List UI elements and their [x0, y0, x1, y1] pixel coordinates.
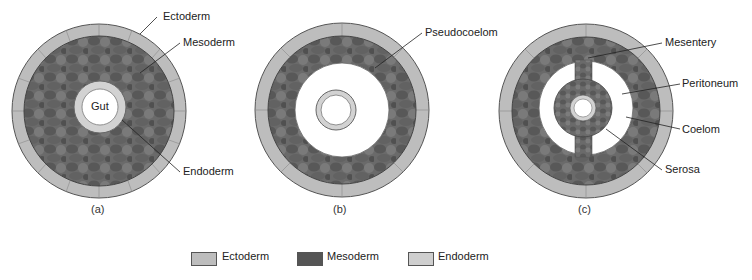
gut-cavity — [574, 99, 592, 117]
label-serosa: Serosa — [665, 163, 700, 175]
legend-label-endoderm: Endoderm — [438, 250, 489, 262]
legend-label-mesoderm: Mesoderm — [327, 250, 379, 262]
label-gut: Gut — [91, 100, 109, 112]
caption-b: (b) — [333, 203, 346, 215]
label-coelom: Coelom — [682, 123, 720, 135]
panel-c-diagram — [499, 24, 680, 198]
label-mesoderm: Mesoderm — [183, 36, 235, 48]
legend-swatch-ectoderm — [191, 252, 217, 266]
label-mesentery: Mesentery — [665, 36, 716, 48]
panel-b-diagram — [255, 23, 429, 197]
caption-a: (a) — [91, 203, 104, 215]
gut-cavity — [321, 95, 351, 125]
legend-swatch-mesoderm — [297, 252, 323, 266]
legend-swatch-endoderm — [408, 252, 434, 266]
legend-label-ectoderm: Ectoderm — [222, 250, 269, 262]
label-peritoneum: Peritoneum — [682, 77, 738, 89]
legend: Ectoderm Mesoderm Endoderm — [0, 250, 752, 266]
label-pseudocoelom: Pseudocoelom — [425, 26, 498, 38]
caption-c: (c) — [578, 203, 591, 215]
label-ectoderm: Ectoderm — [163, 10, 210, 22]
body-plan-diagram — [0, 0, 752, 280]
label-endoderm: Endoderm — [183, 165, 234, 177]
